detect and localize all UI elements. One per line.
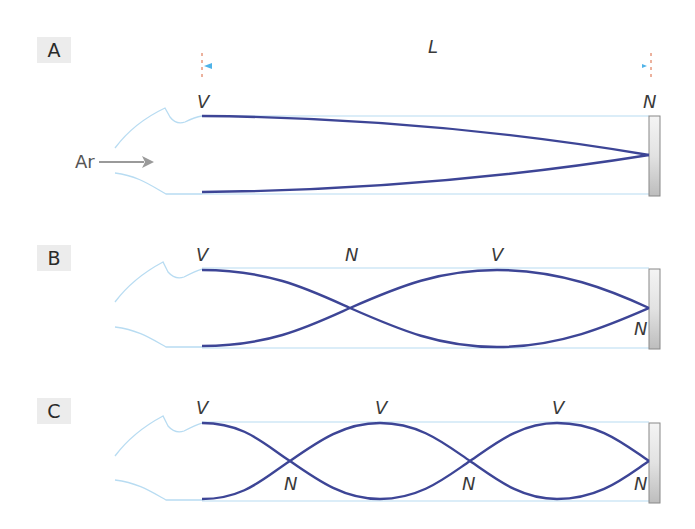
wave-lower	[202, 155, 649, 192]
mouthpiece-bottom-outline	[115, 173, 202, 194]
mouthpiece-top-outline	[115, 416, 202, 456]
antinode-label: V	[196, 397, 210, 418]
length-label: L	[428, 36, 438, 57]
node-label: N	[643, 91, 656, 112]
antinode-label: V	[491, 244, 505, 265]
mouthpiece-top-outline	[115, 108, 202, 148]
air-label: Ar	[75, 151, 95, 172]
wave-upper	[202, 116, 649, 155]
antinode-label: V	[375, 397, 389, 418]
mouthpiece-top-outline	[115, 262, 202, 302]
standing-wave-diagram: L Ar V N V N V N	[0, 0, 695, 529]
antinode-label: V	[196, 244, 210, 265]
arrow-right-icon	[642, 64, 647, 68]
node-label: N	[634, 473, 647, 494]
node-label: N	[634, 318, 647, 339]
length-arrow	[204, 63, 647, 69]
closed-end-wall	[649, 423, 660, 503]
panel-b: V N V N	[115, 244, 660, 349]
node-label: N	[284, 473, 297, 494]
mouthpiece-bottom-outline	[115, 327, 202, 347]
antinode-label: V	[197, 91, 211, 112]
panel-a: L Ar V N	[75, 36, 660, 196]
closed-end-wall	[649, 269, 660, 349]
closed-end-wall	[649, 116, 660, 196]
arrow-left-icon	[204, 63, 212, 69]
antinode-label: V	[552, 397, 566, 418]
panel-c: V V V N N N	[115, 397, 660, 503]
node-label: N	[345, 244, 358, 265]
node-label: N	[462, 473, 475, 494]
mouthpiece-bottom-outline	[115, 480, 202, 500]
